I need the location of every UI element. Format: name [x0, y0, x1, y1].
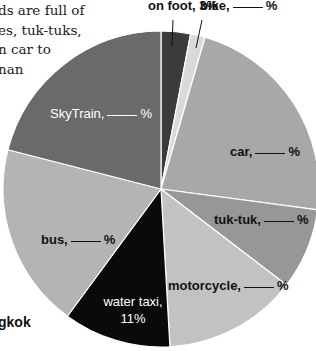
label-value: 11% [94, 310, 172, 327]
label-value: % [104, 232, 116, 247]
label-text: car, [230, 144, 252, 159]
slice-label-motorcycle: motorcycle,% [168, 278, 289, 293]
slice-label-skytrain: SkyTrain,% [50, 106, 152, 121]
blank-line [71, 241, 101, 242]
label-text: tuk-tuk, [214, 212, 261, 227]
blank-line [255, 153, 285, 154]
blank-line [244, 287, 274, 288]
label-text: bike, [200, 0, 230, 13]
slice-label-water-taxi: water taxi, 11% [94, 293, 172, 327]
label-value: % [266, 0, 278, 13]
label-value: % [140, 106, 152, 121]
label-text: motorcycle, [168, 278, 241, 293]
slice-label-bike: bike,% [200, 0, 277, 13]
label-text: bus, [41, 232, 68, 247]
label-text: water taxi, [94, 293, 172, 310]
label-text: SkyTrain, [50, 106, 104, 121]
side-label: gkok [0, 314, 31, 330]
label-value: % [288, 144, 300, 159]
label-text: on foot, [148, 0, 196, 13]
slice-label-tuk-tuk: tuk-tuk,% [214, 212, 309, 227]
blank-line [107, 115, 137, 116]
slice-label-bus: bus,% [41, 232, 115, 247]
blank-line [233, 7, 263, 8]
slice-label-car: car,% [230, 144, 300, 159]
label-value: % [297, 212, 309, 227]
blank-line [264, 221, 294, 222]
label-value: % [277, 278, 289, 293]
